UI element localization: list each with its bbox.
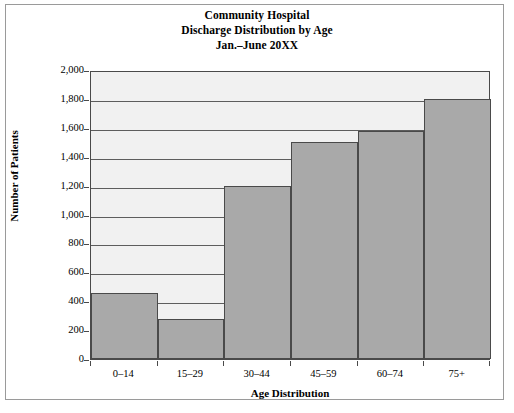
- y-axis-tick-label: 1,400: [40, 151, 84, 162]
- y-axis-tick-mark: [84, 331, 89, 332]
- y-axis-tick-mark: [84, 244, 89, 245]
- x-axis-title: Age Distribution: [90, 387, 490, 399]
- x-axis-tick-mark: [357, 361, 358, 366]
- x-axis-tick-mark: [423, 361, 424, 366]
- chart-title: Community Hospital Discharge Distributio…: [0, 8, 514, 53]
- x-axis-tick-label: 15–29: [157, 368, 224, 379]
- y-axis-tick-mark: [84, 273, 89, 274]
- y-axis-tick-mark: [84, 100, 89, 101]
- x-axis-tick-label: 30–44: [223, 368, 290, 379]
- x-axis-tick-mark: [290, 361, 291, 366]
- y-axis-tick-label: 800: [40, 237, 84, 248]
- y-axis-tick-mark: [84, 360, 89, 361]
- x-axis-tick-mark: [489, 361, 490, 366]
- x-axis-ticks: [90, 361, 490, 367]
- y-axis-tick-label: 2,000: [40, 64, 84, 75]
- x-axis-tick-mark: [157, 361, 158, 366]
- bar: [158, 319, 225, 359]
- y-axis-tick-label: 600: [40, 266, 84, 277]
- x-axis-tick-label: 0–14: [90, 368, 157, 379]
- y-axis-tick-label: 1,600: [40, 122, 84, 133]
- x-axis-tick-mark: [90, 361, 91, 366]
- y-axis-ticks: 02004006008001,0001,2001,4001,6001,8002,…: [34, 71, 84, 360]
- y-axis-tick-mark: [84, 129, 89, 130]
- x-axis-tick-label: 45–59: [290, 368, 357, 379]
- bar: [91, 293, 158, 359]
- y-axis-tick-label: 400: [40, 295, 84, 306]
- x-axis-tick-label: 60–74: [357, 368, 424, 379]
- y-axis-title: Number of Patients: [8, 76, 20, 276]
- y-axis-tick-mark: [84, 302, 89, 303]
- y-axis-tick-label: 1,800: [40, 93, 84, 104]
- bar: [224, 186, 291, 359]
- chart-figure: Community Hospital Discharge Distributio…: [0, 0, 514, 413]
- y-axis-tick-mark: [84, 71, 89, 72]
- bar: [291, 142, 358, 359]
- plot-area: [90, 71, 490, 360]
- y-axis-tick-mark: [84, 158, 89, 159]
- chart-title-line-3: Jan.–June 20XX: [0, 38, 514, 53]
- y-axis-tick-mark: [84, 187, 89, 188]
- chart-title-line-1: Community Hospital: [0, 8, 514, 23]
- y-axis-tick-label: 1,000: [40, 209, 84, 220]
- y-axis-tick-label: 0: [40, 353, 84, 364]
- x-axis-tick-labels: 0–1415–2930–4445–5960–7475+: [90, 368, 490, 384]
- x-axis-tick-label: 75+: [423, 368, 490, 379]
- y-axis-tick-label: 200: [40, 324, 84, 335]
- bar-series: [91, 72, 489, 359]
- y-axis-tick-label: 1,200: [40, 180, 84, 191]
- y-axis-tick-mark: [84, 216, 89, 217]
- x-axis-tick-mark: [223, 361, 224, 366]
- bar: [358, 131, 425, 359]
- bar: [424, 99, 491, 359]
- chart-title-line-2: Discharge Distribution by Age: [0, 23, 514, 38]
